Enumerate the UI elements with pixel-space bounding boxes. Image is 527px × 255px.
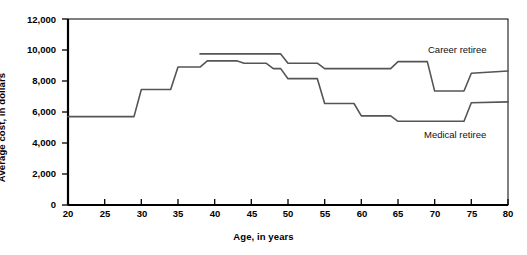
career-retiree-label: Career retiree (428, 44, 487, 55)
chart-container: Average cost, in dollars Age, in years 1… (0, 0, 527, 255)
plot-area (0, 0, 527, 255)
series-line-career-retiree (200, 54, 508, 91)
medical-retiree-label: Medical retiree (424, 129, 486, 140)
